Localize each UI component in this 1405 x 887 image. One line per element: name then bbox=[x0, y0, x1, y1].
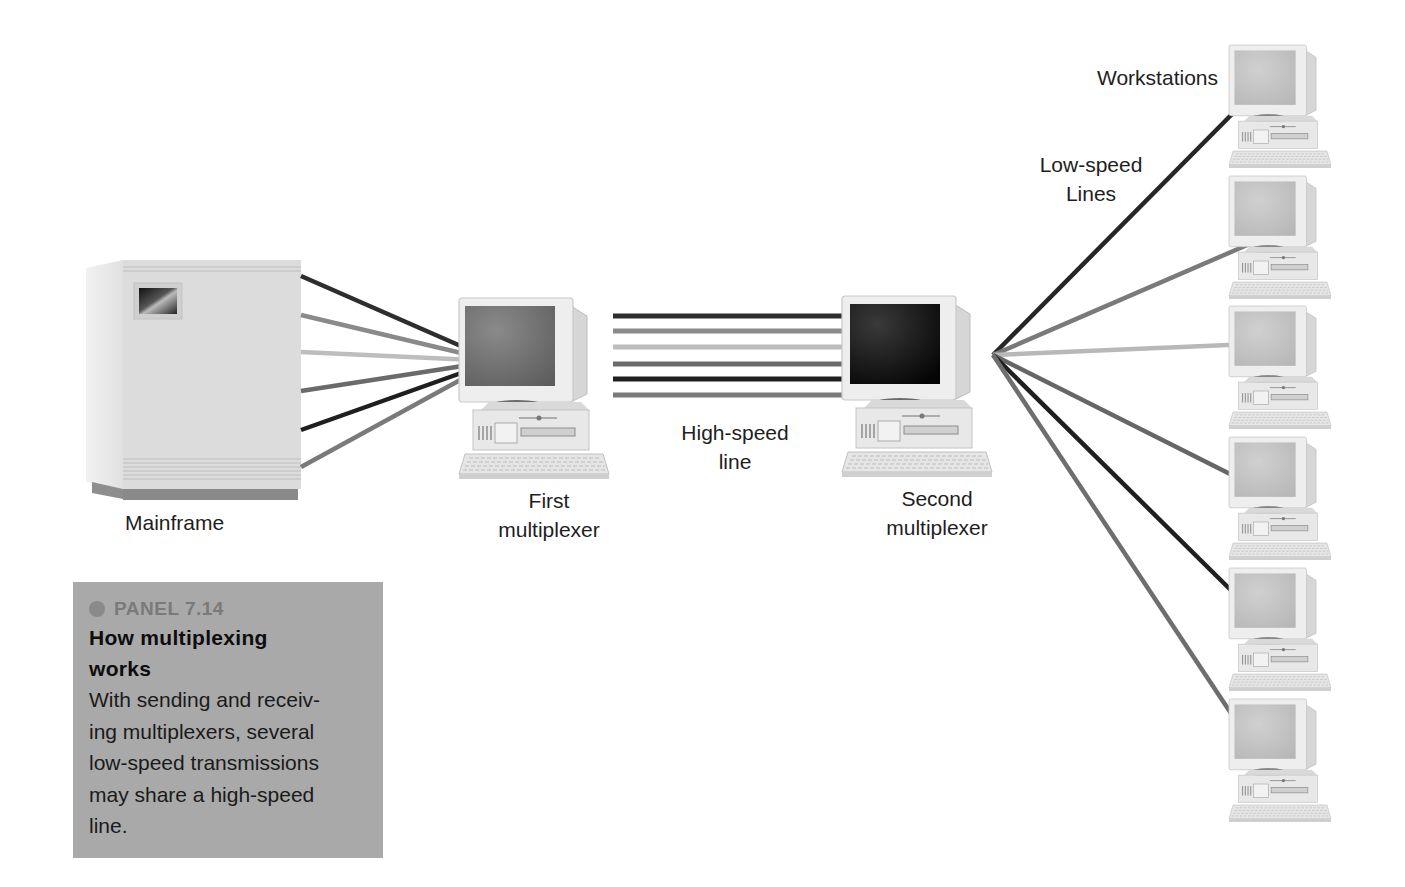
panel-number: PANEL 7.14 bbox=[114, 598, 224, 620]
panel-body: With sending and receiv- ing multiplexer… bbox=[89, 684, 369, 842]
first-multiplexer-label-line1: First bbox=[490, 486, 608, 515]
workstation-icon-4 bbox=[1229, 437, 1331, 560]
panel-body-line: low-speed transmissions bbox=[89, 747, 369, 779]
mainframe-label: Mainframe bbox=[125, 508, 224, 537]
caption-panel: PANEL 7.14 How multiplexing works With s… bbox=[73, 582, 383, 858]
low-speed-lines-label: Low-speed Lines bbox=[1030, 150, 1152, 208]
workstations-label: Workstations bbox=[1097, 63, 1218, 92]
workstation-icon-6 bbox=[1229, 699, 1331, 822]
first-multiplexer-label: First multiplexer bbox=[490, 486, 608, 544]
low-speed-label-line2: Lines bbox=[1030, 179, 1152, 208]
workstations-label-text: Workstations bbox=[1097, 63, 1218, 92]
panel-title: How multiplexing works bbox=[89, 622, 369, 684]
high-speed-label-line1: High-speed bbox=[672, 418, 798, 447]
low-speed-label-line1: Low-speed bbox=[1030, 150, 1152, 179]
second-multiplexer-label-line2: multiplexer bbox=[878, 513, 996, 542]
first-multiplexer-label-line2: multiplexer bbox=[490, 515, 608, 544]
high-speed-line bbox=[613, 316, 873, 395]
mainframe-label-text: Mainframe bbox=[125, 508, 224, 537]
panel-tag: PANEL 7.14 bbox=[89, 596, 369, 622]
panel-title-line2: works bbox=[89, 653, 369, 684]
panel-body-line: line. bbox=[89, 810, 369, 842]
workstation-icon-5 bbox=[1229, 568, 1331, 691]
second-multiplexer-icon bbox=[842, 296, 992, 477]
workstation-icon-2 bbox=[1229, 176, 1331, 299]
high-speed-line-label: High-speed line bbox=[672, 418, 798, 476]
workstation-icon-1 bbox=[1229, 45, 1331, 168]
second-multiplexer-label: Second multiplexer bbox=[878, 484, 996, 542]
panel-body-line: ing multiplexers, several bbox=[89, 716, 369, 748]
first-multiplexer-icon bbox=[459, 298, 609, 479]
workstation-icon-3 bbox=[1229, 306, 1331, 429]
second-multiplexer-label-line1: Second bbox=[878, 484, 996, 513]
bullet-dot-icon bbox=[89, 601, 105, 617]
panel-body-line: With sending and receiv- bbox=[89, 684, 369, 716]
mainframe-icon bbox=[86, 260, 301, 500]
panel-body-line: may share a high-speed bbox=[89, 779, 369, 811]
panel-title-line1: How multiplexing bbox=[89, 622, 369, 653]
high-speed-label-line2: line bbox=[672, 447, 798, 476]
